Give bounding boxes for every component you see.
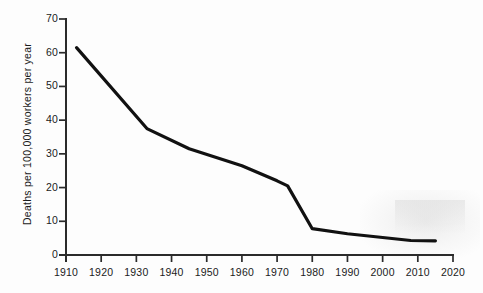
y-tick-label-0: 0 <box>34 248 58 260</box>
y-axis-title: Deaths per 100,000 workers per year <box>21 19 33 249</box>
chart-canvas <box>0 0 483 293</box>
x-tick-label-1910: 1910 <box>50 266 82 278</box>
x-tick-label-1970: 1970 <box>261 266 293 278</box>
x-tick-label-2010: 2010 <box>402 266 434 278</box>
x-tick-label-1920: 1920 <box>85 266 117 278</box>
y-tick-label-60: 60 <box>34 46 58 58</box>
y-tick-label-40: 40 <box>34 113 58 125</box>
x-tick-label-2020: 2020 <box>437 266 469 278</box>
x-tick-label-1960: 1960 <box>226 266 258 278</box>
x-tick-label-1990: 1990 <box>331 266 363 278</box>
y-tick-label-30: 30 <box>34 147 58 159</box>
x-tick-label-1950: 1950 <box>191 266 223 278</box>
y-tick-label-70: 70 <box>34 12 58 24</box>
data-series-line <box>77 48 436 241</box>
line-chart: Deaths per 100,000 workers per year 1910… <box>0 0 483 293</box>
x-tick-label-1940: 1940 <box>156 266 188 278</box>
y-tick-label-10: 10 <box>34 214 58 226</box>
x-tick-label-1980: 1980 <box>296 266 328 278</box>
x-tick-label-1930: 1930 <box>120 266 152 278</box>
x-tick-label-2000: 2000 <box>367 266 399 278</box>
y-tick-label-20: 20 <box>34 181 58 193</box>
y-tick-label-50: 50 <box>34 79 58 91</box>
